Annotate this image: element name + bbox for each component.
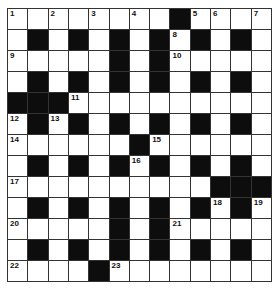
grid-cell[interactable] <box>28 51 47 71</box>
grid-cell[interactable]: 19 <box>252 198 271 218</box>
grid-cell[interactable] <box>130 219 149 239</box>
grid-cell[interactable] <box>252 93 271 113</box>
grid-cell[interactable]: 16 <box>130 156 149 176</box>
grid-cell[interactable] <box>191 135 210 155</box>
grid-cell[interactable]: 10 <box>170 51 189 71</box>
grid-cell[interactable] <box>170 261 189 281</box>
grid-cell[interactable] <box>252 240 271 260</box>
grid-cell[interactable] <box>89 156 108 176</box>
grid-cell[interactable] <box>130 93 149 113</box>
grid-cell[interactable] <box>211 261 230 281</box>
grid-cell[interactable]: 17 <box>8 177 27 197</box>
grid-cell[interactable] <box>49 51 68 71</box>
grid-cell[interactable] <box>89 135 108 155</box>
grid-cell[interactable] <box>191 261 210 281</box>
grid-cell[interactable] <box>231 93 250 113</box>
grid-cell[interactable]: 11 <box>69 93 88 113</box>
grid-cell[interactable] <box>231 135 250 155</box>
grid-cell[interactable] <box>8 198 27 218</box>
grid-cell[interactable] <box>211 51 230 71</box>
grid-cell[interactable] <box>69 219 88 239</box>
grid-cell[interactable]: 9 <box>8 51 27 71</box>
grid-cell[interactable] <box>191 93 210 113</box>
grid-cell[interactable] <box>211 240 230 260</box>
grid-cell[interactable] <box>231 219 250 239</box>
grid-cell[interactable] <box>170 177 189 197</box>
grid-cell[interactable] <box>170 114 189 134</box>
grid-cell[interactable] <box>69 135 88 155</box>
grid-cell[interactable] <box>69 51 88 71</box>
grid-cell[interactable] <box>89 93 108 113</box>
grid-cell[interactable] <box>69 9 88 29</box>
grid-cell[interactable] <box>130 261 149 281</box>
grid-cell[interactable]: 2 <box>49 9 68 29</box>
grid-cell[interactable] <box>150 93 169 113</box>
grid-cell[interactable]: 6 <box>211 9 230 29</box>
grid-cell[interactable] <box>150 177 169 197</box>
grid-cell[interactable] <box>170 198 189 218</box>
grid-cell[interactable] <box>252 156 271 176</box>
grid-cell[interactable] <box>49 198 68 218</box>
grid-cell[interactable] <box>150 9 169 29</box>
grid-cell[interactable] <box>28 177 47 197</box>
grid-cell[interactable] <box>89 114 108 134</box>
grid-cell[interactable] <box>211 114 230 134</box>
grid-cell[interactable]: 13 <box>49 114 68 134</box>
grid-cell[interactable]: 5 <box>191 9 210 29</box>
grid-cell[interactable] <box>28 261 47 281</box>
grid-cell[interactable] <box>170 156 189 176</box>
grid-cell[interactable] <box>252 219 271 239</box>
grid-cell[interactable] <box>49 261 68 281</box>
grid-cell[interactable] <box>49 177 68 197</box>
grid-cell[interactable] <box>130 51 149 71</box>
grid-cell[interactable]: 8 <box>170 30 189 50</box>
grid-cell[interactable] <box>170 240 189 260</box>
grid-cell[interactable] <box>130 177 149 197</box>
grid-cell[interactable] <box>49 219 68 239</box>
grid-cell[interactable]: 21 <box>170 219 189 239</box>
grid-cell[interactable] <box>28 219 47 239</box>
grid-cell[interactable] <box>49 72 68 92</box>
grid-cell[interactable] <box>191 177 210 197</box>
grid-cell[interactable] <box>170 135 189 155</box>
grid-cell[interactable] <box>110 177 129 197</box>
grid-cell[interactable] <box>69 177 88 197</box>
grid-cell[interactable]: 3 <box>89 9 108 29</box>
grid-cell[interactable]: 23 <box>110 261 129 281</box>
grid-cell[interactable] <box>191 219 210 239</box>
grid-cell[interactable] <box>130 30 149 50</box>
grid-cell[interactable] <box>252 261 271 281</box>
grid-cell[interactable] <box>49 30 68 50</box>
grid-cell[interactable] <box>211 93 230 113</box>
grid-cell[interactable] <box>130 72 149 92</box>
grid-cell[interactable]: 4 <box>130 9 149 29</box>
grid-cell[interactable]: 1 <box>8 9 27 29</box>
grid-cell[interactable] <box>252 114 271 134</box>
grid-cell[interactable] <box>110 135 129 155</box>
grid-cell[interactable] <box>211 72 230 92</box>
grid-cell[interactable] <box>252 135 271 155</box>
grid-cell[interactable] <box>89 198 108 218</box>
grid-cell[interactable] <box>231 51 250 71</box>
grid-cell[interactable] <box>231 9 250 29</box>
grid-cell[interactable] <box>211 135 230 155</box>
grid-cell[interactable] <box>211 30 230 50</box>
grid-cell[interactable] <box>130 114 149 134</box>
grid-cell[interactable] <box>130 198 149 218</box>
grid-cell[interactable] <box>49 156 68 176</box>
grid-cell[interactable] <box>211 156 230 176</box>
grid-cell[interactable]: 12 <box>8 114 27 134</box>
grid-cell[interactable]: 7 <box>252 9 271 29</box>
grid-cell[interactable] <box>110 93 129 113</box>
grid-cell[interactable]: 20 <box>8 219 27 239</box>
grid-cell[interactable] <box>231 261 250 281</box>
grid-cell[interactable] <box>8 240 27 260</box>
grid-cell[interactable] <box>252 72 271 92</box>
grid-cell[interactable] <box>130 240 149 260</box>
grid-cell[interactable] <box>252 51 271 71</box>
grid-cell[interactable]: 15 <box>150 135 169 155</box>
grid-cell[interactable] <box>170 93 189 113</box>
grid-cell[interactable] <box>49 240 68 260</box>
grid-cell[interactable]: 22 <box>8 261 27 281</box>
grid-cell[interactable] <box>28 135 47 155</box>
